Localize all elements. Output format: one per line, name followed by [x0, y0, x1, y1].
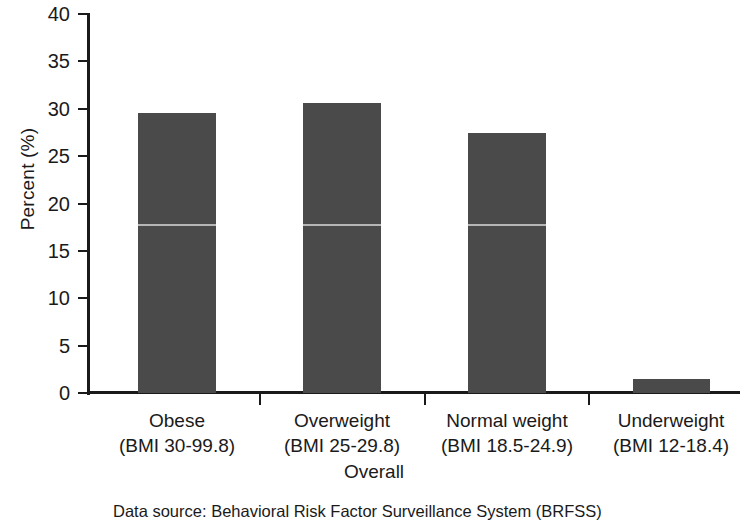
scan-line-artifact	[303, 224, 381, 226]
y-axis-tick-label: 0	[0, 380, 70, 406]
y-axis-tick-mark	[78, 155, 88, 157]
y-axis-tick-label: 5	[0, 333, 70, 359]
y-axis-tick-mark	[78, 392, 88, 394]
scan-line-artifact	[138, 224, 216, 226]
x-axis-title: Overall	[0, 461, 748, 483]
bar	[138, 113, 216, 393]
y-axis-tick-label: 35	[0, 48, 70, 74]
y-axis-tick-label: 30	[0, 96, 70, 122]
x-axis-tick-mark	[424, 393, 426, 405]
y-axis-tick-mark	[78, 203, 88, 205]
y-axis-tick-mark	[78, 250, 88, 252]
y-axis-title: Percent (%)	[17, 104, 39, 254]
y-axis-tick-label: 40	[0, 1, 70, 27]
plot-area	[88, 14, 740, 393]
bar	[468, 133, 546, 393]
y-axis-tick-label: 10	[0, 285, 70, 311]
y-axis-tick-label: 25	[0, 143, 70, 169]
y-axis-tick-mark	[78, 297, 88, 299]
y-axis-tick-mark	[78, 108, 88, 110]
bar-chart-figure: Percent (%) 0510152025303540 Obese(BMI 3…	[0, 0, 748, 528]
scan-line-artifact	[468, 224, 546, 226]
x-axis-category-label: Underweight(BMI 12-18.4)	[571, 408, 748, 458]
y-axis-tick-mark	[78, 13, 88, 15]
y-axis-tick-mark	[78, 60, 88, 62]
category-bmi-range: (BMI 12-18.4)	[571, 433, 748, 458]
x-axis-tick-mark	[588, 393, 590, 405]
y-axis-tick-mark	[78, 345, 88, 347]
x-axis-tick-mark	[259, 393, 261, 405]
y-axis-tick-label: 20	[0, 191, 70, 217]
category-name: Underweight	[571, 408, 748, 433]
bar	[303, 103, 381, 393]
source-note: Data source: Behavioral Risk Factor Surv…	[113, 502, 602, 521]
y-axis-tick-label: 15	[0, 238, 70, 264]
bar	[633, 379, 710, 393]
